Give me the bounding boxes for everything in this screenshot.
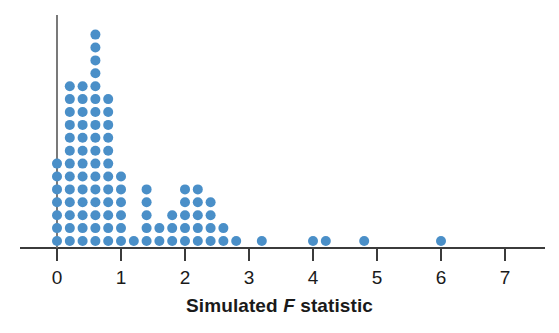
data-dot — [90, 159, 100, 169]
data-dot — [78, 159, 88, 169]
data-dot — [90, 68, 100, 78]
data-dot — [167, 236, 177, 246]
dot-column — [116, 172, 126, 247]
data-dot — [65, 159, 75, 169]
data-dot — [167, 223, 177, 233]
data-dot — [78, 120, 88, 130]
data-dot — [90, 223, 100, 233]
dot-column — [321, 236, 331, 246]
data-dot — [52, 184, 62, 194]
data-dot — [180, 184, 190, 194]
data-dot — [154, 223, 164, 233]
data-dot — [103, 133, 113, 143]
data-dot — [103, 197, 113, 207]
x-axis-tick-label: 0 — [52, 267, 63, 288]
data-dot — [142, 197, 152, 207]
dot-column — [142, 184, 152, 246]
data-dot — [78, 223, 88, 233]
data-dot — [52, 172, 62, 182]
data-dot — [65, 94, 75, 104]
data-dot — [90, 146, 100, 156]
data-dot — [90, 172, 100, 182]
dot-column — [129, 236, 139, 246]
dot-column — [90, 30, 100, 246]
data-dot — [257, 236, 267, 246]
data-dot — [65, 210, 75, 220]
data-dot — [90, 120, 100, 130]
dot-column — [103, 94, 113, 246]
data-dot — [231, 236, 241, 246]
data-dot — [52, 159, 62, 169]
data-dot — [52, 210, 62, 220]
data-dot — [65, 184, 75, 194]
dot-column — [231, 236, 241, 246]
data-dot — [193, 210, 203, 220]
data-dot — [78, 81, 88, 91]
dot-column — [218, 223, 228, 246]
data-dot — [78, 197, 88, 207]
data-dot — [78, 236, 88, 246]
x-axis-tick-label: 2 — [180, 267, 191, 288]
dot-column — [52, 159, 62, 246]
dot-column — [257, 236, 267, 246]
data-dot — [193, 197, 203, 207]
data-dot — [65, 133, 75, 143]
data-dot — [90, 81, 100, 91]
data-dot — [116, 236, 126, 246]
data-dot — [142, 223, 152, 233]
data-dot — [78, 146, 88, 156]
data-dot — [90, 94, 100, 104]
x-axis-tick-label: 6 — [436, 267, 447, 288]
data-dot — [65, 236, 75, 246]
x-axis-tick-label: 1 — [116, 267, 127, 288]
data-dot — [90, 236, 100, 246]
data-dot — [52, 197, 62, 207]
data-dot — [103, 146, 113, 156]
data-dot — [103, 107, 113, 117]
data-dot — [180, 197, 190, 207]
data-dot — [180, 236, 190, 246]
data-dot — [90, 133, 100, 143]
x-axis-title-italic-f: F — [283, 295, 295, 316]
dot-column — [359, 236, 369, 246]
data-dot — [142, 210, 152, 220]
x-axis-tick-label: 7 — [500, 267, 511, 288]
data-dot — [65, 197, 75, 207]
data-dot — [103, 210, 113, 220]
data-dot — [142, 236, 152, 246]
data-dot — [193, 223, 203, 233]
data-dot — [167, 210, 177, 220]
data-dot — [206, 210, 216, 220]
x-axis-tick-label: 3 — [244, 267, 255, 288]
data-dot — [103, 184, 113, 194]
data-dot — [90, 210, 100, 220]
data-dot — [78, 210, 88, 220]
data-dot — [206, 236, 216, 246]
axis-tick-labels-layer: 01234567 — [52, 267, 511, 288]
dot-column — [206, 197, 216, 246]
data-dot — [90, 55, 100, 65]
data-dot — [308, 236, 318, 246]
data-dot — [78, 107, 88, 117]
x-axis-title-suffix: statistic — [295, 295, 373, 316]
data-dot — [90, 43, 100, 53]
data-dot — [142, 184, 152, 194]
data-dot — [321, 236, 331, 246]
data-dot — [78, 133, 88, 143]
data-dot — [103, 94, 113, 104]
data-dot — [206, 223, 216, 233]
data-dot — [103, 223, 113, 233]
dotplot-figure: 01234567 Simulated F statistic — [0, 0, 559, 333]
data-dot — [52, 223, 62, 233]
data-dot — [65, 81, 75, 91]
data-dot — [65, 107, 75, 117]
dot-column — [167, 210, 177, 246]
dot-column — [180, 184, 190, 246]
data-dot — [90, 107, 100, 117]
axis-ticks-layer — [57, 248, 505, 261]
x-axis-tick-label: 5 — [372, 267, 383, 288]
data-dot — [65, 223, 75, 233]
data-dot — [78, 172, 88, 182]
data-dot — [65, 146, 75, 156]
data-dot — [193, 184, 203, 194]
